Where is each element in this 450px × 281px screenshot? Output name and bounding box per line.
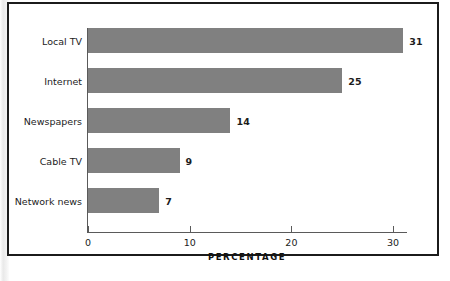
x-tick-mark <box>393 226 394 233</box>
x-tick-mark <box>291 226 292 233</box>
category-label: Newspapers <box>0 115 82 126</box>
bar-row: Newspapers 14 <box>88 108 270 133</box>
category-label: Internet <box>0 75 82 86</box>
bar-value-label: 9 <box>186 155 193 166</box>
bar-network-news <box>88 188 159 213</box>
x-axis-line <box>87 232 407 233</box>
bar-chart-plot-area: Local TV 31 Internet 25 Newspapers 14 Ca… <box>0 0 450 281</box>
bar-internet <box>88 68 342 93</box>
bar-row: Network news 7 <box>88 188 199 213</box>
category-label-wrap: Local TV <box>0 28 82 53</box>
category-label-wrap: Network news <box>0 188 82 213</box>
bar-value-label: 7 <box>165 195 172 206</box>
category-label: Local TV <box>0 35 82 46</box>
bar-row: Cable TV 9 <box>88 148 220 173</box>
bar-value-label: 25 <box>348 75 362 86</box>
category-label-wrap: Cable TV <box>0 148 82 173</box>
bar-row: Local TV 31 <box>88 28 443 53</box>
bar-newspapers <box>88 108 230 133</box>
x-tick-label: 10 <box>184 237 196 248</box>
x-tick-label: 20 <box>285 237 297 248</box>
x-axis-title: PERCENTAGE <box>87 252 407 262</box>
category-label: Network news <box>0 195 82 206</box>
bar-row: Internet 25 <box>88 68 382 93</box>
bar-local-tv <box>88 28 403 53</box>
bar-value-label: 14 <box>236 115 250 126</box>
category-label: Cable TV <box>0 155 82 166</box>
x-tick-mark <box>190 226 191 233</box>
chart-page: Local TV 31 Internet 25 Newspapers 14 Ca… <box>0 0 450 281</box>
x-tick-label: 30 <box>387 237 399 248</box>
x-tick-mark <box>88 226 89 233</box>
category-label-wrap: Internet <box>0 68 82 93</box>
bar-value-label: 31 <box>409 35 423 46</box>
bar-cable-tv <box>88 148 180 173</box>
category-label-wrap: Newspapers <box>0 108 82 133</box>
x-tick-label: 0 <box>85 237 91 248</box>
